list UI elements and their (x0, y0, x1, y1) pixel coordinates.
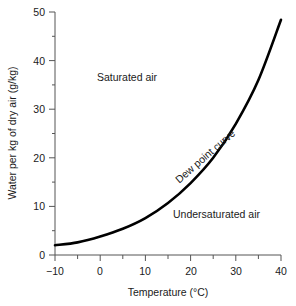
y-tick-label-10: 10 (19, 200, 45, 212)
x-tick-label-30: 30 (230, 265, 242, 277)
y-tick-label-0: 0 (19, 249, 45, 261)
dew-point-chart: 0 10 20 30 40 50 −10 0 10 20 30 40 Tempe… (0, 0, 296, 306)
x-tick-label-40: 40 (275, 265, 287, 277)
x-tick-label-minus10: −10 (46, 265, 64, 277)
x-axis-title: Temperature (°C) (128, 286, 209, 298)
y-tick-label-20: 20 (19, 152, 45, 164)
x-minor-ticks (78, 255, 259, 259)
y-axis-title: Water per kg of dry air (g/kg) (6, 66, 18, 199)
x-tick-label-0: 0 (97, 265, 103, 277)
x-tick-label-20: 20 (185, 265, 197, 277)
undersaturated-air-label: Undersaturated air (173, 208, 260, 220)
x-tick-label-10: 10 (139, 265, 151, 277)
y-tick-label-50: 50 (19, 6, 45, 18)
saturated-air-label: Saturated air (97, 71, 157, 83)
y-tick-label-40: 40 (19, 55, 45, 67)
y-tick-label-30: 30 (19, 103, 45, 115)
